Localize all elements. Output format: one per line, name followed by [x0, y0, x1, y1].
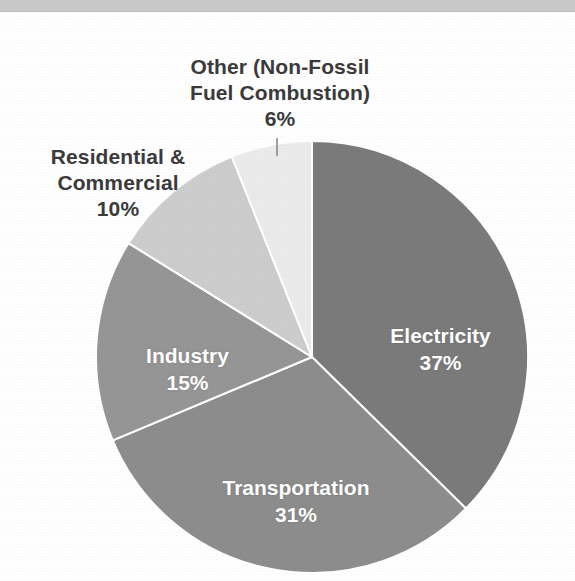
- slice-label-electricity: Electricity 37%: [348, 295, 533, 403]
- slice-label-industry-text: Industry: [146, 344, 229, 367]
- slice-label-residential-commercial-percent: 10%: [8, 196, 228, 222]
- slice-label-transportation: Transportation 31%: [181, 447, 411, 555]
- slice-label-transportation-text: Transportation: [222, 476, 369, 499]
- slice-label-residential-commercial: Residential & Commercial 10%: [8, 118, 228, 248]
- pie-chart: Other (Non-Fossil Fuel Combustion) 6% Re…: [0, 0, 575, 581]
- slice-label-industry-percent: 15%: [110, 369, 265, 396]
- slice-label-electricity-percent: 37%: [348, 349, 533, 376]
- slice-label-industry: Industry 15%: [110, 315, 265, 423]
- slice-label-residential-commercial-text: Residential & Commercial: [51, 145, 185, 194]
- slice-label-electricity-text: Electricity: [390, 324, 490, 347]
- slice-label-transportation-percent: 31%: [181, 501, 411, 528]
- slice-label-other-text: Other (Non-Fossil Fuel Combustion): [190, 55, 370, 104]
